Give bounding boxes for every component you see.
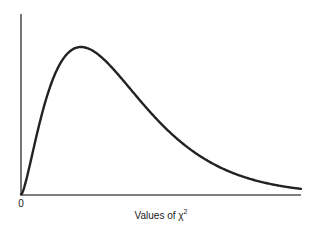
x-axis-label: Values of χ2 xyxy=(0,208,316,221)
x-axis-label-text: Values of χ xyxy=(135,210,184,221)
series-layer xyxy=(21,47,301,194)
chart-area: 0 xyxy=(0,0,316,235)
series-line-chi-square-density xyxy=(21,47,301,194)
x-axis-label-superscript: 2 xyxy=(184,208,188,215)
